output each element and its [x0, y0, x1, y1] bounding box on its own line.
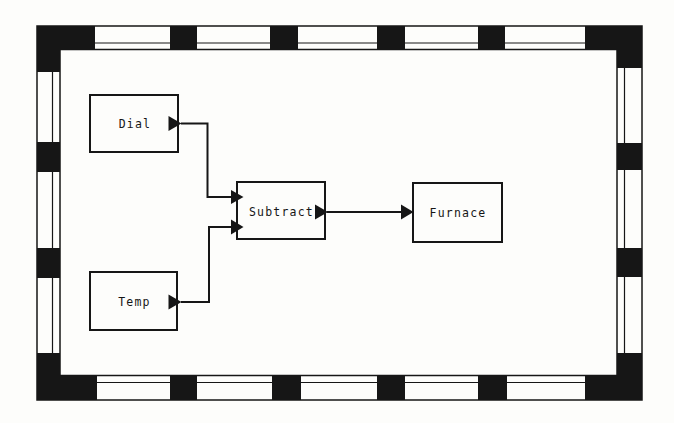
- frame-black-tile: [377, 26, 405, 50]
- node-temp-label: Temp: [118, 295, 151, 309]
- frame-black-tile: [478, 376, 507, 400]
- wire-dial-to-subtract: [181, 124, 232, 198]
- frame-corner-bottom-right: [585, 353, 642, 400]
- frame-black-tile: [617, 143, 642, 170]
- frame-black-tile: [617, 248, 642, 277]
- node-dial-label: Dial: [119, 117, 152, 131]
- frame-black-tile: [478, 26, 505, 50]
- diagram-drawing: Dial Temp Subtract Furnace: [0, 0, 674, 423]
- frame-black-tile: [377, 376, 405, 400]
- frame-corner-top-right: [585, 26, 642, 68]
- frame-corner-top-left: [37, 26, 95, 72]
- frame-black-tile: [272, 376, 301, 400]
- frame-black-tile: [270, 26, 298, 50]
- frame-black-tile: [37, 248, 60, 278]
- wire-temp-to-subtract: [181, 227, 232, 302]
- frame-black-tile: [170, 376, 197, 400]
- node-furnace-label: Furnace: [430, 206, 487, 220]
- frame-corner-bottom-left: [37, 353, 97, 400]
- frame-black-tile: [37, 142, 60, 172]
- frame-black-tile: [170, 26, 197, 50]
- input-arrowhead-furnace-icon: [401, 205, 414, 220]
- figure-canvas: Dial Temp Subtract Furnace: [0, 0, 674, 423]
- node-subtract-label: Subtract: [249, 205, 314, 219]
